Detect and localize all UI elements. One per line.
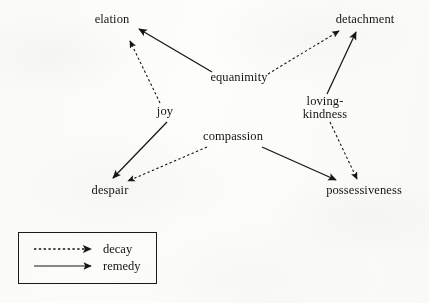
node-detachment: detachment <box>336 13 395 27</box>
edge-lovingkindness-possessiveness <box>330 122 357 179</box>
legend: decay remedy <box>18 232 157 284</box>
edge-compassion-despair <box>128 147 207 181</box>
edge-lovingkindness-detachment <box>327 32 356 94</box>
node-possessiveness: possessiveness <box>326 184 402 198</box>
node-loving-kindness: loving- kindness <box>303 95 348 121</box>
diagram-page: elation detachment equanimity loving- ki… <box>0 0 429 303</box>
edge-compassion-possessiveness <box>262 147 336 180</box>
edge-equanimity-elation <box>139 29 212 72</box>
node-joy: joy <box>157 105 173 119</box>
edge-equanimity-detachment <box>268 31 339 74</box>
edge-joy-despair <box>113 122 167 178</box>
node-equanimity: equanimity <box>210 71 267 85</box>
edge-joy-elation <box>130 41 160 103</box>
node-compassion: compassion <box>203 130 263 144</box>
legend-remedy-label: remedy <box>103 259 140 273</box>
node-elation: elation <box>95 13 130 27</box>
node-despair: despair <box>92 184 129 198</box>
legend-sample-arrows <box>19 233 156 283</box>
legend-decay-label: decay <box>103 242 132 256</box>
